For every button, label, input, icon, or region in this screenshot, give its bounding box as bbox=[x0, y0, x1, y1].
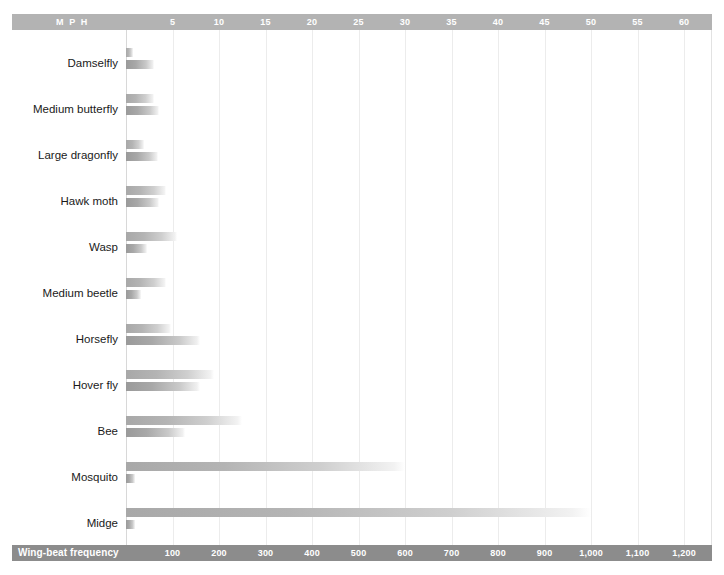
bar-wingbeat-midge bbox=[126, 508, 591, 517]
bar-wingbeat-horsefly bbox=[126, 324, 171, 333]
top-axis-tick-10: 10 bbox=[214, 14, 224, 30]
top-axis-tick-35: 35 bbox=[446, 14, 456, 30]
bar-wingbeat-wasp bbox=[126, 232, 177, 241]
category-label-horsefly: Horsefly bbox=[0, 332, 118, 346]
bar-mph-medium-beetle bbox=[126, 290, 141, 299]
chart-row: Hover fly bbox=[0, 366, 724, 412]
bar-mph-large-dragonfly bbox=[126, 152, 158, 161]
top-axis-tick-15: 15 bbox=[260, 14, 270, 30]
bar-mph-hawk-moth bbox=[126, 198, 159, 207]
category-label-bee: Bee bbox=[0, 424, 118, 438]
category-label-medium-beetle: Medium beetle bbox=[0, 286, 118, 300]
bar-wingbeat-mosquito bbox=[126, 462, 405, 471]
chart-row: Wasp bbox=[0, 228, 724, 274]
chart-row: Horsefly bbox=[0, 320, 724, 366]
top-axis-tick-5: 5 bbox=[170, 14, 175, 30]
category-label-wasp: Wasp bbox=[0, 240, 118, 254]
category-label-mosquito: Mosquito bbox=[0, 470, 118, 484]
bar-mph-midge bbox=[126, 520, 135, 529]
top-axis-tick-20: 20 bbox=[307, 14, 317, 30]
category-label-hover-fly: Hover fly bbox=[0, 378, 118, 392]
top-axis-tick-40: 40 bbox=[493, 14, 503, 30]
top-axis-tick-25: 25 bbox=[353, 14, 363, 30]
category-label-large-dragonfly: Large dragonfly bbox=[0, 148, 118, 162]
bar-mph-hover-fly bbox=[126, 382, 200, 391]
bar-mph-mosquito bbox=[126, 474, 135, 483]
bar-wingbeat-medium-beetle bbox=[126, 278, 166, 287]
category-label-medium-butterfly: Medium butterfly bbox=[0, 102, 118, 116]
bar-wingbeat-hover-fly bbox=[126, 370, 214, 379]
bar-wingbeat-medium-butterfly bbox=[126, 94, 154, 103]
chart-row: Hawk moth bbox=[0, 182, 724, 228]
chart-row: Bee bbox=[0, 412, 724, 458]
bar-mph-horsefly bbox=[126, 336, 200, 345]
top-axis-tick-55: 55 bbox=[632, 14, 642, 30]
top-axis-title: M P H bbox=[56, 14, 89, 30]
insect-flight-chart: M P H 51015202530354045505560 Wing-beat … bbox=[0, 0, 724, 575]
bar-mph-wasp bbox=[126, 244, 147, 253]
bar-mph-damselfly bbox=[126, 60, 154, 69]
bar-wingbeat-hawk-moth bbox=[126, 186, 166, 195]
top-axis-tick-60: 60 bbox=[679, 14, 689, 30]
category-label-hawk-moth: Hawk moth bbox=[0, 194, 118, 208]
chart-row: Mosquito bbox=[0, 458, 724, 504]
chart-row: Large dragonfly bbox=[0, 136, 724, 182]
bar-mph-medium-butterfly bbox=[126, 106, 159, 115]
top-axis-tick-50: 50 bbox=[586, 14, 596, 30]
bar-wingbeat-bee bbox=[126, 416, 242, 425]
bar-mph-bee bbox=[126, 428, 185, 437]
chart-row: Medium butterfly bbox=[0, 90, 724, 136]
category-label-damselfly: Damselfly bbox=[0, 56, 118, 70]
chart-row: Medium beetle bbox=[0, 274, 724, 320]
top-axis-mph: M P H 51015202530354045505560 bbox=[12, 14, 712, 30]
bar-wingbeat-damselfly bbox=[126, 48, 133, 57]
category-label-midge: Midge bbox=[0, 516, 118, 530]
bar-wingbeat-large-dragonfly bbox=[126, 140, 144, 149]
top-axis-tick-45: 45 bbox=[539, 14, 549, 30]
chart-row: Damselfly bbox=[0, 44, 724, 90]
top-axis-tick-30: 30 bbox=[400, 14, 410, 30]
chart-row: Midge bbox=[0, 504, 724, 550]
